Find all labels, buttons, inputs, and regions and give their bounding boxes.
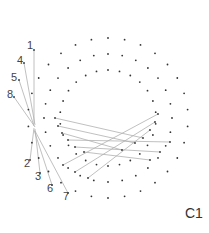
fan-end-dot <box>157 113 159 115</box>
leader-line <box>24 63 35 125</box>
fan-end-dot <box>83 151 85 153</box>
fan-end-dot <box>74 171 76 173</box>
fan-line <box>75 147 160 152</box>
ring-outer-dot <box>124 195 126 197</box>
ring-inner-dot <box>152 100 154 102</box>
ring-inner-dot <box>139 153 141 155</box>
ring-inner-dot <box>147 90 149 92</box>
ring-outer-dot <box>187 109 189 111</box>
ring-outer-dot <box>140 44 142 46</box>
ring-outer-dot <box>154 52 156 54</box>
ring-middle-dot <box>45 131 47 133</box>
ring-outer-dot <box>75 44 77 46</box>
ring-middle-dot <box>107 181 109 183</box>
fan-line <box>75 122 155 172</box>
ring-outer-dot <box>38 77 40 79</box>
ring-middle-dot <box>170 103 172 105</box>
ring-outer-dot <box>31 142 33 144</box>
ring-outer-dot <box>124 39 126 41</box>
label-6: 6 <box>47 182 53 194</box>
ring-outer-dot <box>75 190 77 192</box>
ring-outer-dot <box>91 195 93 197</box>
label-2: 2 <box>24 157 30 169</box>
corner-label: C1 <box>185 205 203 221</box>
fan-end-dot <box>57 125 59 127</box>
leader-line <box>14 97 35 127</box>
ring-middle-dot <box>135 175 137 177</box>
ring-middle-dot <box>147 67 149 69</box>
diagram-canvas: 1 4 5 8 2 3 6 7 C1 <box>0 0 209 233</box>
ring-inner-dot <box>68 90 70 92</box>
label-8: 8 <box>7 88 13 100</box>
leader-line <box>30 128 34 160</box>
ring-inner-dot <box>119 164 121 166</box>
ring-inner-dot <box>107 69 109 71</box>
ring-outer-dot <box>140 190 142 192</box>
fan-end-dot <box>154 121 156 123</box>
ring-middle-dot <box>165 89 167 91</box>
ring-outer-dot <box>154 182 156 184</box>
fan-line <box>63 114 158 165</box>
ring-inner-dot <box>107 165 109 167</box>
ring-inner-dot <box>75 81 77 83</box>
fan-line <box>62 133 122 150</box>
ring-middle-dot <box>43 117 45 119</box>
label-anchor-dot <box>33 49 35 51</box>
ring-outer-dot <box>38 157 40 159</box>
fan-end-dot <box>134 142 136 144</box>
fan-end-dot <box>74 146 76 148</box>
fan-end-dot <box>62 164 64 166</box>
label-anchor-dot <box>13 96 15 98</box>
ring-middle-dot <box>67 167 69 169</box>
ring-inner-dot <box>85 75 87 77</box>
ring-inner-dot <box>96 164 98 166</box>
ring-inner-dot <box>62 134 64 136</box>
ring-middle-dot <box>107 53 109 55</box>
ring-middle-dot <box>79 59 81 61</box>
ring-outer-dot <box>48 64 50 66</box>
ring-middle-dot <box>135 59 137 61</box>
leader-line <box>19 80 34 126</box>
fan-end-dot <box>159 151 161 153</box>
label-1: 1 <box>27 39 33 51</box>
ring-middle-dot <box>57 77 59 79</box>
ring-middle-dot <box>165 145 167 147</box>
ring-middle-dot <box>93 180 95 182</box>
ring-inner-dot <box>62 100 64 102</box>
label-3: 3 <box>35 170 41 182</box>
ring-middle-dot <box>79 175 81 177</box>
label-anchor-dot <box>18 79 20 81</box>
ring-inner-dot <box>129 75 131 77</box>
label-5: 5 <box>11 71 17 83</box>
ring-inner-dot <box>147 144 149 146</box>
ring-inner-dot <box>68 144 70 146</box>
fan-end-dot <box>149 129 151 131</box>
ring-inner-dot <box>96 71 98 73</box>
fan-end-dot <box>142 137 144 139</box>
fan-end-dot <box>169 141 171 143</box>
ring-middle-dot <box>45 103 47 105</box>
ring-middle-dot <box>147 167 149 169</box>
ring-inner-dot <box>139 81 141 83</box>
fan-line <box>68 140 170 142</box>
ring-middle-dot <box>157 77 159 79</box>
ring-middle-dot <box>67 67 69 69</box>
ring-outer-dot <box>28 109 30 111</box>
ring-middle-dot <box>171 117 173 119</box>
ring-inner-dot <box>129 160 131 162</box>
ring-outer-dot <box>91 39 93 41</box>
ring-middle-dot <box>121 180 123 182</box>
ring-inner-dot <box>75 153 77 155</box>
ring-outer-dot <box>31 92 33 94</box>
ring-middle-dot <box>49 145 51 147</box>
ring-outer-dot <box>107 197 109 199</box>
ring-middle-dot <box>121 55 123 57</box>
ring-inner-dot <box>85 160 87 162</box>
ring-outer-dot <box>187 126 189 128</box>
ring-outer-dot <box>107 37 109 39</box>
ring-outer-dot <box>176 77 178 79</box>
ring-outer-dot <box>167 64 169 66</box>
label-anchor-dot <box>23 62 25 64</box>
fan-end-dot <box>61 132 63 134</box>
fan-end-dot <box>121 149 123 151</box>
